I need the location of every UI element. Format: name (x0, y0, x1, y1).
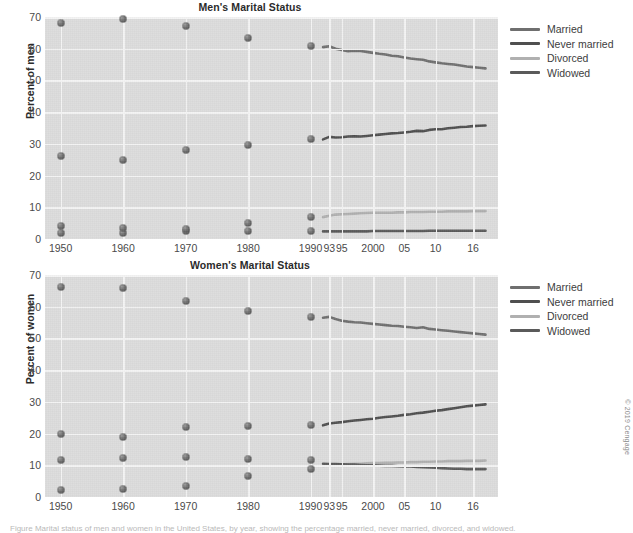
gridline-horizontal (45, 465, 498, 467)
x-axis-tick-label: 1960 (111, 500, 134, 512)
y-axis-tick-label: 60 (29, 301, 41, 313)
gridline-horizontal (45, 144, 498, 146)
x-axis-tick-label: 93 (323, 500, 335, 512)
y-axis-tick-label: 50 (29, 74, 41, 86)
legend-swatch-icon (510, 28, 540, 31)
legend-swatch-icon (510, 42, 540, 45)
data-point-marker (182, 454, 189, 461)
data-point-marker (245, 473, 252, 480)
data-point-marker (57, 430, 64, 437)
y-axis-tick-label: 70 (29, 269, 41, 281)
gridline-vertical (186, 17, 188, 239)
y-axis-tick-label: 0 (35, 491, 41, 503)
data-point-marker (307, 228, 314, 235)
gridline-horizontal (45, 207, 498, 209)
data-point-marker (57, 487, 64, 494)
legend-item[interactable]: Widowed (510, 324, 633, 339)
gridline-horizontal (45, 80, 498, 82)
data-point-marker (307, 135, 314, 142)
x-axis-tick-label: 95 (336, 500, 348, 512)
page-title-men: Men's Marital Status (0, 1, 500, 13)
data-point-marker (245, 34, 252, 41)
legend-item-label: Never married (547, 296, 614, 308)
legend-item-label: Never married (547, 38, 614, 50)
data-point-marker (307, 421, 314, 428)
y-axis-tick-label: 70 (29, 11, 41, 23)
x-axis-tick-label: 1970 (174, 500, 197, 512)
legend-men: MarriedNever marriedDivorcedWidowed (510, 22, 633, 80)
x-axis-tick-label: 1990 (299, 242, 322, 254)
data-point-marker (182, 146, 189, 153)
data-point-marker (57, 229, 64, 236)
gridline-horizontal (45, 434, 498, 436)
data-point-marker (120, 433, 127, 440)
data-point-marker (307, 313, 314, 320)
gridline-vertical (373, 17, 375, 239)
data-point-marker (57, 284, 64, 291)
y-axis-tick-label: 0 (35, 233, 41, 245)
legend-item[interactable]: Married (510, 280, 633, 295)
y-axis-tick-label: 10 (29, 201, 41, 213)
data-point-marker (307, 465, 314, 472)
plot-area-women: 0102030405060701950196019701980199093952… (45, 275, 498, 497)
data-point-marker (57, 222, 64, 229)
data-point-marker (307, 42, 314, 49)
page-title-women: Women's Marital Status (0, 259, 500, 271)
figure-caption: Figure Marital status of men and women i… (10, 524, 623, 533)
x-axis-tick-label: 10 (430, 242, 442, 254)
legend-women: MarriedNever marriedDivorcedWidowed (510, 280, 633, 338)
x-axis-tick-label: 1960 (111, 242, 134, 254)
chart-panel-women: Women's Marital Status Percent of women … (0, 258, 633, 520)
x-axis-tick-label: 05 (398, 242, 410, 254)
gridline-vertical (311, 17, 313, 239)
x-axis-tick-label: 1950 (49, 242, 72, 254)
gridline-vertical (123, 275, 125, 497)
data-point-marker (57, 20, 64, 27)
legend-item[interactable]: Married (510, 22, 633, 37)
legend-item[interactable]: Divorced (510, 51, 633, 66)
series-lines-men (45, 17, 498, 239)
legend-swatch-icon (510, 286, 540, 289)
x-axis-tick-label: 1980 (236, 500, 259, 512)
gridline-vertical (311, 275, 313, 497)
gridline-horizontal (45, 49, 498, 51)
y-axis-tick-label: 40 (29, 364, 41, 376)
gridline-vertical (329, 275, 331, 497)
x-axis-tick-label: 1980 (236, 242, 259, 254)
gridline-vertical (329, 17, 331, 239)
y-axis-tick-label: 40 (29, 106, 41, 118)
data-point-marker (120, 454, 127, 461)
legend-item[interactable]: Widowed (510, 66, 633, 81)
data-point-marker (57, 456, 64, 463)
legend-item-label: Divorced (547, 52, 588, 64)
data-point-marker (120, 16, 127, 23)
x-axis-tick-label: 2000 (361, 242, 384, 254)
y-axis-tick-label: 50 (29, 332, 41, 344)
data-point-marker (182, 22, 189, 29)
legend-item[interactable]: Divorced (510, 309, 633, 324)
legend-item-label: Married (547, 23, 583, 35)
data-point-marker (57, 152, 64, 159)
gridline-vertical (123, 17, 125, 239)
legend-swatch-icon (510, 329, 540, 332)
x-axis-tick-label: 1970 (174, 242, 197, 254)
data-point-marker (120, 486, 127, 493)
gridline-horizontal (45, 176, 498, 178)
chart-panel-men: Men's Marital Status Percent of men 0102… (0, 0, 633, 262)
legend-item[interactable]: Never married (510, 295, 633, 310)
y-axis-tick-label: 30 (29, 396, 41, 408)
x-axis-tick-label: 2000 (361, 500, 384, 512)
data-point-marker (182, 225, 189, 232)
data-point-marker (307, 456, 314, 463)
legend-item[interactable]: Never married (510, 37, 633, 52)
data-point-marker (307, 214, 314, 221)
copyright-credit: © 2019 Cengage (624, 399, 631, 455)
x-axis-tick-label: 95 (336, 242, 348, 254)
data-point-marker (120, 156, 127, 163)
y-axis-tick-label: 20 (29, 428, 41, 440)
data-point-marker (182, 297, 189, 304)
gridline-horizontal (45, 338, 498, 340)
legend-swatch-icon (510, 71, 540, 74)
plot-area-men: 0102030405060701950196019701980199093952… (45, 17, 498, 239)
x-axis-tick-label: 05 (398, 500, 410, 512)
